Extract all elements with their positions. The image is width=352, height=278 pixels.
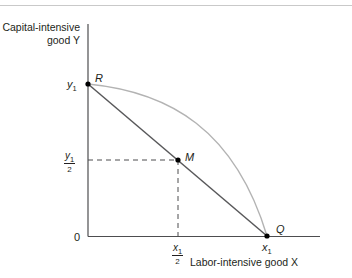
- point-r: [85, 81, 90, 86]
- y1-tick-label: y1: [67, 78, 77, 92]
- y1-sub: 1: [73, 84, 77, 93]
- x1-sub: 1: [268, 247, 272, 256]
- origin-label: 0: [74, 231, 80, 243]
- y-axis-title-line1: Capital-intensive: [0, 21, 80, 34]
- point-q: [264, 233, 269, 238]
- y1-half-den: 2: [67, 164, 71, 174]
- x1-tick-label: x1: [262, 241, 272, 255]
- point-m: [175, 157, 180, 162]
- x1-half-tick-label: x1 2: [172, 243, 183, 266]
- point-m-label: M: [185, 151, 194, 163]
- x-axis-title: Labor-intensive good X: [190, 256, 298, 268]
- x1-half-den: 2: [175, 256, 179, 266]
- y-axis-title: Capital-intensive good Y: [0, 21, 80, 47]
- y1-var: y: [67, 78, 73, 90]
- x1-var: x: [262, 241, 268, 253]
- point-r-label: R: [95, 72, 103, 84]
- y1-half-sub: 1: [70, 155, 74, 164]
- y1-half-tick-label: y1 2: [64, 151, 75, 174]
- point-q-label: Q: [276, 223, 285, 235]
- x1-half-sub: 1: [178, 247, 182, 256]
- y-axis-title-line2: good Y: [0, 34, 80, 47]
